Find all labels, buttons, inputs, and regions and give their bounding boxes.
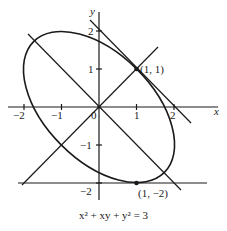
point-label-1-1: (1, 1) <box>140 63 164 76</box>
origin-point <box>97 105 100 108</box>
origin-label: 0 <box>91 109 97 121</box>
y-tick-label: −1 <box>80 139 92 151</box>
figure-caption: x² + xy + y² = 3 <box>0 209 227 221</box>
x-tick-label: −1 <box>51 109 63 121</box>
ellipse-diagram: x y −2 −1 1 2 0 2 1 −1 −2 (1, 1) (1, −2) <box>0 0 227 231</box>
point-1-neg2 <box>134 181 139 186</box>
x-tick-label: 2 <box>170 109 176 121</box>
point-label-1-neg2: (1, −2) <box>138 187 168 200</box>
y-tick-label: 2 <box>88 25 94 37</box>
x-tick-label: −2 <box>13 109 25 121</box>
x-tick-label: 1 <box>134 109 140 121</box>
point-1-1 <box>134 67 139 72</box>
y-tick-label: 1 <box>88 63 94 75</box>
y-axis-label: y <box>89 5 95 17</box>
x-axis-label: x <box>213 105 219 117</box>
y-tick-label: −2 <box>80 185 92 197</box>
